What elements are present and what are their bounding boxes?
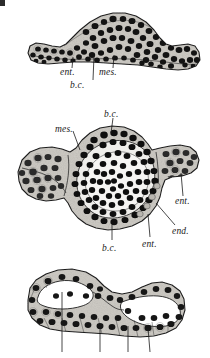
label-middle-mes: mes. <box>55 125 73 135</box>
histology-plate: ent. b.c. mes. b.c. mes. ent. end. ent. … <box>0 0 210 358</box>
label-middle-end: end. <box>172 227 189 237</box>
label-middle-ent-bottom: ent. <box>142 240 157 250</box>
figure-middle <box>18 118 199 240</box>
figure-bottom <box>28 269 185 352</box>
plate-artwork <box>0 0 210 358</box>
label-middle-bc-bottom: b.c. <box>102 244 117 254</box>
label-top-ent: ent. <box>60 68 75 78</box>
label-middle-ent: ent. <box>175 197 190 207</box>
label-middle-bc-top: b.c. <box>104 110 119 120</box>
corner-registration-mark <box>0 0 5 6</box>
label-top-bc: b.c. <box>70 81 85 91</box>
label-top-mes: mes. <box>99 68 117 78</box>
